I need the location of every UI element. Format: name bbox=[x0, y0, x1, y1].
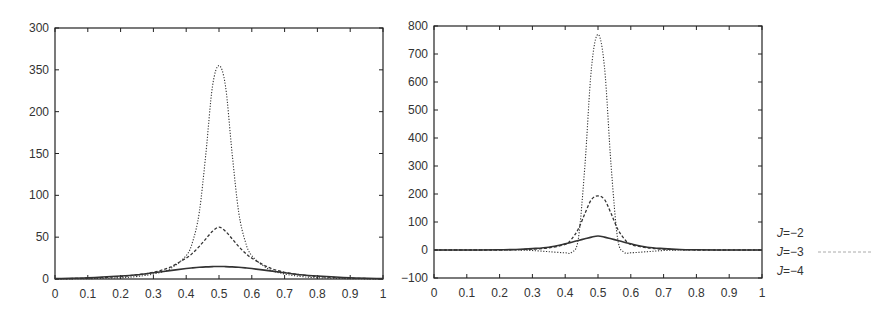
x-tick-label: 0.5 bbox=[590, 286, 607, 300]
y-tick-label: 0 bbox=[42, 272, 49, 286]
x-tick-label: 0.9 bbox=[342, 287, 359, 301]
x-tick-label: 0.7 bbox=[276, 287, 293, 301]
legend-label: J=−3 bbox=[776, 245, 804, 259]
y-tick-label: 300 bbox=[408, 159, 428, 173]
legend-label: J=−4 bbox=[776, 264, 804, 278]
series-dashed-line bbox=[55, 227, 383, 279]
chart-canvas: 00.10.20.30.40.50.60.70.80.9105010015020… bbox=[0, 0, 892, 313]
y-tick-label: 100 bbox=[29, 188, 49, 202]
legend-label: J=−2 bbox=[776, 226, 804, 240]
x-tick-label: 0.8 bbox=[688, 286, 705, 300]
y-tick-label: −100 bbox=[401, 271, 428, 285]
series-dotted-line bbox=[434, 34, 762, 253]
x-tick-label: 0.2 bbox=[112, 287, 129, 301]
y-tick-label: 700 bbox=[408, 47, 428, 61]
x-tick-label: 0.3 bbox=[145, 287, 162, 301]
y-tick-label: 100 bbox=[408, 215, 428, 229]
x-tick-label: 0.4 bbox=[557, 286, 574, 300]
y-tick-label: 800 bbox=[408, 19, 428, 33]
y-tick-label: 200 bbox=[408, 187, 428, 201]
x-tick-label: 0.2 bbox=[491, 286, 508, 300]
plot-frame bbox=[434, 26, 762, 278]
y-tick-label: 150 bbox=[29, 147, 49, 161]
y-tick-label: 200 bbox=[29, 105, 49, 119]
plot-left: 00.10.20.30.40.50.60.70.80.9105010015020… bbox=[29, 21, 387, 301]
x-tick-label: 0.1 bbox=[79, 287, 96, 301]
series-dashed-line bbox=[434, 196, 762, 250]
x-tick-label: 0.3 bbox=[524, 286, 541, 300]
y-tick-label: 500 bbox=[408, 103, 428, 117]
x-tick-label: 0.8 bbox=[309, 287, 326, 301]
x-tick-label: 0 bbox=[52, 287, 59, 301]
x-tick-label: 0.6 bbox=[243, 287, 260, 301]
x-tick-label: 0.1 bbox=[458, 286, 475, 300]
x-tick-label: 0.9 bbox=[721, 286, 738, 300]
x-tick-label: 0.6 bbox=[622, 286, 639, 300]
x-tick-label: 1 bbox=[759, 286, 766, 300]
legend: J=−2J=−3J=−4 bbox=[776, 226, 872, 278]
plot-right: 00.10.20.30.40.50.60.70.80.91−1000100200… bbox=[401, 19, 766, 300]
x-tick-label: 0.4 bbox=[178, 287, 195, 301]
y-tick-label: 350 bbox=[29, 63, 49, 77]
y-tick-label: 600 bbox=[408, 75, 428, 89]
y-tick-label: 50 bbox=[36, 230, 50, 244]
series-dotted-line bbox=[55, 66, 383, 279]
x-tick-label: 0.5 bbox=[211, 287, 228, 301]
y-tick-label: 400 bbox=[408, 131, 428, 145]
x-tick-label: 0 bbox=[431, 286, 438, 300]
y-tick-label: 300 bbox=[29, 21, 49, 35]
series-solid-line bbox=[434, 236, 762, 250]
x-tick-label: 1 bbox=[380, 287, 387, 301]
y-tick-label: 0 bbox=[421, 243, 428, 257]
x-tick-label: 0.7 bbox=[655, 286, 672, 300]
